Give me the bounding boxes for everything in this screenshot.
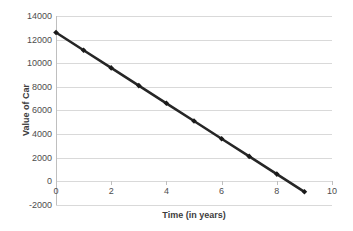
x-tick-8 [277,181,278,185]
gridline-2000 [56,158,332,159]
gridline-12000 [56,40,332,41]
y-tick-text: 14000 [27,11,52,21]
y-tick-label-14000: 14000 [0,11,52,21]
gridline-0 [56,181,332,182]
data-point-marker [81,47,87,53]
gridline-6000 [56,110,332,111]
y-tick-label-0: 0 [0,176,52,186]
x-tick-2 [111,181,112,185]
gridline-8000 [56,87,332,88]
y-tick-text: 8000 [32,82,52,92]
x-tick-label-10: 10 [320,186,344,196]
y-tick-label-12000: 12000 [0,35,52,45]
x-tick-label-4: 4 [154,186,178,196]
x-tick-text: 0 [53,186,58,196]
gridline-10000 [56,63,332,64]
y-tick-text: 10000 [27,58,52,68]
x-axis-title: Time (in years) [56,210,332,220]
x-tick-text: 8 [274,186,279,196]
line-chart: 14000 12000 10000 8000 6000 4000 2000 0 … [0,0,353,231]
y-tick-text: -2000 [29,200,52,210]
x-tick-text: 10 [327,186,337,196]
data-point-marker [191,118,197,124]
data-point-marker [219,136,225,142]
data-point-marker [164,101,170,107]
x-tick-text: 6 [219,186,224,196]
y-tick-text: 2000 [32,153,52,163]
data-series-layer [0,0,353,231]
data-point-marker [108,65,114,71]
gridline-4000 [56,134,332,135]
x-tick-label-0: 0 [44,186,68,196]
series-line [56,33,304,192]
y-axis-title: Value of Car [21,84,31,136]
data-point-marker [302,189,308,195]
y-axis-line [56,16,57,205]
x-tick-text: 4 [164,186,169,196]
x-tick-4 [166,181,167,185]
x-tick-6 [222,181,223,185]
y-tick-text: 12000 [27,35,52,45]
gridline-14000 [56,16,332,17]
x-tick-label-6: 6 [210,186,234,196]
y-axis-title-holder: Value of Car [2,60,18,160]
y-tick-text: 4000 [32,129,52,139]
x-tick-label-8: 8 [265,186,289,196]
y-tick-text: 0 [47,176,52,186]
x-tick-0 [56,181,57,185]
x-tick-label-2: 2 [99,186,123,196]
series-markers [53,30,307,195]
x-tick-10 [332,181,333,185]
gridline-minus-2000 [56,205,332,206]
y-tick-label-minus-2000: -2000 [0,200,52,210]
data-point-marker [274,171,280,177]
x-tick-text: 2 [109,186,114,196]
y-tick-text: 6000 [32,105,52,115]
